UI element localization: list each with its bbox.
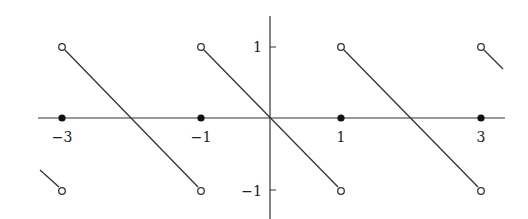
open-point xyxy=(59,188,66,195)
y-tick-label: −1 xyxy=(241,183,262,199)
open-point xyxy=(198,188,205,195)
y-tick-label: 1 xyxy=(253,39,262,55)
open-point xyxy=(478,44,485,51)
segment-right-partial xyxy=(484,50,503,69)
filled-point xyxy=(337,114,344,121)
filled-point xyxy=(58,114,65,121)
filled-point xyxy=(197,114,204,121)
filled-point xyxy=(477,114,484,121)
open-point xyxy=(338,44,345,51)
x-tick-label: 3 xyxy=(477,129,486,145)
sawtooth-plot: −3 −1 1 3 1 −1 xyxy=(0,0,528,219)
open-point xyxy=(198,44,205,51)
open-point xyxy=(478,188,485,195)
x-tick-label: −3 xyxy=(52,129,73,145)
open-point xyxy=(59,44,66,51)
segment-left-partial xyxy=(40,170,59,187)
x-tick-label: 1 xyxy=(337,129,346,145)
x-tick-label: −1 xyxy=(191,129,212,145)
open-point xyxy=(338,188,345,195)
